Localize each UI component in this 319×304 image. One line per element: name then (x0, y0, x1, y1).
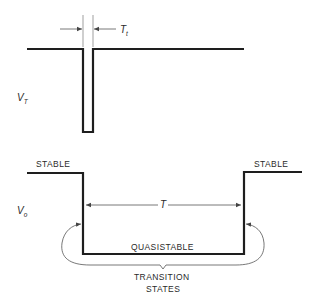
pulse-width-label: Tt (120, 24, 129, 37)
waveform-diagram: Tt VT STABLE STABLE Vo T QUASISTABLE TRA… (0, 0, 319, 304)
output-voltage-label: Vo (17, 205, 28, 218)
period-dimension: T (86, 199, 241, 210)
trigger-voltage-label: VT (17, 92, 29, 105)
stable-label-left: STABLE (36, 159, 70, 169)
trigger-waveform (27, 49, 244, 132)
transition-label-line2: STATES (146, 284, 180, 294)
quasistable-label: QUASISTABLE (131, 242, 194, 252)
period-label: T (160, 199, 167, 210)
stable-label-right: STABLE (254, 159, 288, 169)
transition-label-line1: TRANSITION (134, 272, 189, 282)
pulse-width-dimension: Tt (60, 15, 129, 47)
